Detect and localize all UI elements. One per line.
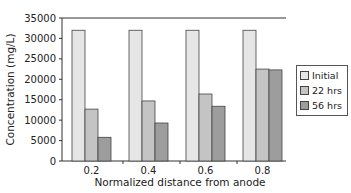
bar (243, 30, 256, 161)
y-axis-label: Concentration (mg/L) (4, 33, 16, 145)
legend-swatch (300, 86, 309, 95)
bar (256, 69, 269, 161)
y-tick-label: 25000 (24, 53, 56, 64)
bar (186, 30, 199, 161)
x-tick-label: 0.4 (141, 165, 157, 176)
bar (85, 109, 98, 161)
legend-item: 22 hrs (300, 83, 344, 98)
legend-swatch (300, 101, 309, 110)
y-tick-label: 0 (50, 156, 56, 167)
x-tick-label: 0.2 (84, 165, 100, 176)
y-tick-label: 35000 (24, 13, 56, 24)
y-tick-label: 10000 (24, 115, 56, 126)
legend-label: 22 hrs (312, 83, 342, 98)
x-tick-label: 0.8 (255, 165, 271, 176)
bar (142, 101, 155, 161)
x-axis-label: Normalized distance from anode (94, 176, 265, 188)
y-tick-label: 30000 (24, 33, 56, 44)
bar (129, 30, 142, 161)
legend-label: Initial (312, 68, 338, 83)
legend-swatch (300, 71, 309, 80)
y-tick-label: 5000 (31, 135, 56, 146)
bar (269, 70, 282, 161)
bar (199, 94, 212, 161)
legend-label: 56 hrs (312, 98, 342, 113)
bar (212, 106, 225, 161)
x-tick-label: 0.6 (198, 165, 214, 176)
bar (98, 137, 111, 161)
chart-legend: Initial22 hrs56 hrs (296, 65, 348, 116)
bar (155, 123, 168, 161)
legend-item: 56 hrs (300, 98, 344, 113)
y-tick-label: 15000 (24, 94, 56, 105)
y-tick-label: 20000 (24, 74, 56, 85)
bar (72, 30, 85, 161)
legend-item: Initial (300, 68, 344, 83)
